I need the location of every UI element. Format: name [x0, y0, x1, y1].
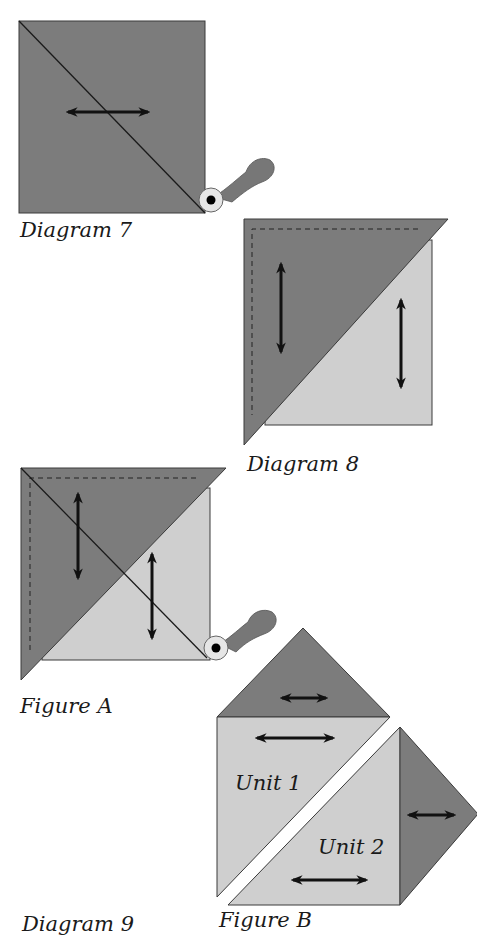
diagram-7: [19, 21, 274, 213]
figure-b-label: Figure B: [219, 908, 312, 932]
diagram-9-label: Diagram 9: [22, 912, 134, 936]
quilt-diagrams-canvas: [0, 0, 477, 944]
unit-2-label: Unit 2: [318, 835, 384, 859]
diagram-7-label: Diagram 7: [20, 218, 132, 242]
figure-a-label: Figure A: [20, 694, 113, 718]
diagram-8-label: Diagram 8: [247, 452, 359, 476]
rotary-cutter-icon: [204, 610, 276, 660]
unit-1-label: Unit 1: [235, 771, 301, 795]
figure-a: [21, 468, 276, 680]
rotary-cutter-icon: [199, 159, 274, 213]
figure-b: [217, 628, 477, 905]
diagram-8: [244, 219, 448, 445]
